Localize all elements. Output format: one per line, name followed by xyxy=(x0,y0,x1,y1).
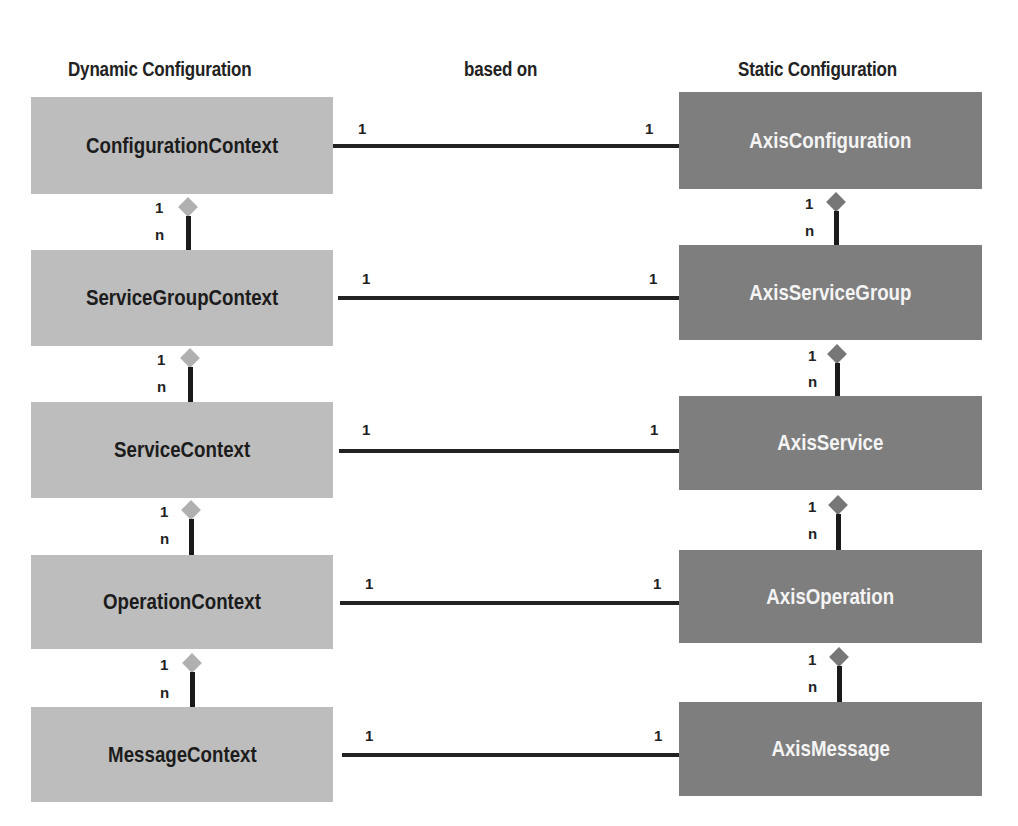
box-label: MessageContext xyxy=(108,742,257,768)
multiplicity-many: n xyxy=(808,525,817,542)
box-label: OperationContext xyxy=(103,589,261,615)
association-line xyxy=(340,601,679,605)
composition-line xyxy=(836,514,841,550)
composition-line xyxy=(834,211,839,245)
multiplicity-many: n xyxy=(808,373,817,390)
composition-diamond-icon xyxy=(178,197,198,217)
multiplicity-one: 1 xyxy=(808,651,816,668)
association-line xyxy=(333,144,679,148)
multiplicity-left: 1 xyxy=(365,575,373,592)
box-label: AxisConfiguration xyxy=(749,128,911,154)
composition-line xyxy=(835,363,840,396)
static-box-axis-message: AxisMessage xyxy=(679,702,982,796)
multiplicity-one: 1 xyxy=(808,347,816,364)
static-box-axis-service-group: AxisServiceGroup xyxy=(679,245,982,340)
composition-diamond-icon xyxy=(828,495,848,515)
static-box-axis-operation: AxisOperation xyxy=(679,550,982,643)
multiplicity-one: 1 xyxy=(805,195,813,212)
association-line xyxy=(338,296,679,300)
dynamic-box-operation-context: OperationContext xyxy=(31,555,333,649)
composition-diamond-icon xyxy=(829,647,849,667)
box-label: AxisService xyxy=(777,430,883,456)
header-based-on: based on xyxy=(464,58,537,81)
multiplicity-many: n xyxy=(805,222,814,239)
static-box-axis-configuration: AxisConfiguration xyxy=(679,92,982,189)
composition-line xyxy=(837,666,842,702)
dynamic-box-service-group-context: ServiceGroupContext xyxy=(31,250,333,346)
composition-line xyxy=(186,216,191,250)
composition-diamond-icon xyxy=(181,500,201,520)
dynamic-box-configuration-context: ConfigurationContext xyxy=(31,97,333,194)
multiplicity-many: n xyxy=(155,226,164,243)
multiplicity-right: 1 xyxy=(650,421,658,438)
multiplicity-right: 1 xyxy=(645,120,653,137)
association-line xyxy=(342,753,679,757)
composition-line xyxy=(190,672,195,707)
multiplicity-right: 1 xyxy=(649,270,657,287)
composition-line xyxy=(189,519,194,555)
multiplicity-many: n xyxy=(160,530,169,547)
association-line xyxy=(339,449,679,453)
multiplicity-one: 1 xyxy=(808,498,816,515)
composition-diamond-icon xyxy=(827,344,847,364)
multiplicity-one: 1 xyxy=(160,503,168,520)
multiplicity-many: n xyxy=(808,678,817,695)
multiplicity-left: 1 xyxy=(358,120,366,137)
dynamic-box-service-context: ServiceContext xyxy=(31,402,333,498)
composition-line xyxy=(188,367,193,402)
multiplicity-left: 1 xyxy=(362,421,370,438)
box-label: AxisMessage xyxy=(771,736,890,762)
dynamic-box-message-context: MessageContext xyxy=(31,707,333,802)
static-box-axis-service: AxisService xyxy=(679,396,982,490)
box-label: AxisOperation xyxy=(767,584,895,610)
multiplicity-right: 1 xyxy=(654,727,662,744)
multiplicity-many: n xyxy=(160,684,169,701)
header-static-configuration: Static Configuration xyxy=(738,58,897,81)
multiplicity-one: 1 xyxy=(157,351,165,368)
box-label: ServiceContext xyxy=(114,437,250,463)
box-label: ConfigurationContext xyxy=(86,133,278,159)
box-label: ServiceGroupContext xyxy=(86,285,278,311)
multiplicity-one: 1 xyxy=(160,656,168,673)
header-dynamic-configuration: Dynamic Configuration xyxy=(68,58,251,81)
multiplicity-many: n xyxy=(157,378,166,395)
box-label: AxisServiceGroup xyxy=(749,280,911,306)
composition-diamond-icon xyxy=(180,348,200,368)
composition-diamond-icon xyxy=(826,192,846,212)
composition-diamond-icon xyxy=(182,653,202,673)
multiplicity-right: 1 xyxy=(653,575,661,592)
multiplicity-one: 1 xyxy=(155,199,163,216)
multiplicity-left: 1 xyxy=(362,270,370,287)
multiplicity-left: 1 xyxy=(365,727,373,744)
